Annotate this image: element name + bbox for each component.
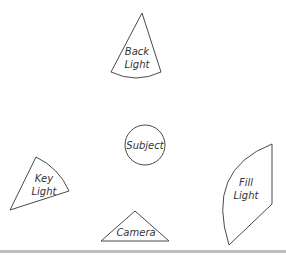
key-light-label-2: Light (32, 186, 58, 197)
key-light-label-1: Key (35, 173, 54, 184)
key-light: Key Light (10, 157, 69, 210)
fill-light-label-2: Light (234, 190, 260, 201)
camera-label: Camera (116, 227, 155, 238)
bottom-divider (0, 250, 286, 253)
camera: Camera (101, 211, 169, 241)
subject: Subject (125, 125, 165, 165)
back-light-label-2: Light (125, 59, 151, 70)
subject-label: Subject (126, 140, 164, 151)
fill-light: Fill Light (223, 144, 272, 245)
back-light: Back Light (111, 13, 161, 78)
lighting-diagram: Back Light Subject Key Light Fill Light … (0, 0, 286, 256)
back-light-label-1: Back (125, 46, 150, 57)
fill-light-label-1: Fill (239, 177, 253, 188)
